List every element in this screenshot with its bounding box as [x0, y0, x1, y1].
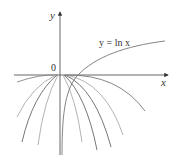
x-axis-label: x	[160, 76, 166, 88]
family-curve-3	[22, 75, 57, 142]
origin-label: 0	[51, 62, 56, 73]
family-curve-1	[17, 75, 58, 82]
curve-family-right	[63, 75, 145, 150]
curve-family-left	[17, 75, 58, 145]
family-curve-4	[38, 75, 58, 145]
family-curve-7	[65, 75, 111, 147]
y-axis-label: y	[49, 9, 55, 21]
curve-label: y = ln x	[99, 37, 130, 48]
chart-figure: y x 0 y = ln x	[0, 0, 181, 164]
ln-curve	[62, 41, 165, 155]
